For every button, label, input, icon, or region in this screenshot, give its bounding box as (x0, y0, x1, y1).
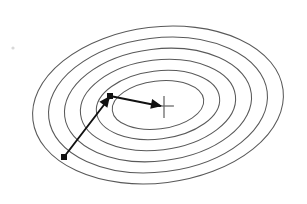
contour-diagram-figure (0, 0, 307, 204)
contour-diagram-canvas (0, 0, 307, 204)
background-speck (11, 46, 14, 49)
path-mid-node (107, 93, 113, 99)
path-start-node (61, 154, 67, 160)
